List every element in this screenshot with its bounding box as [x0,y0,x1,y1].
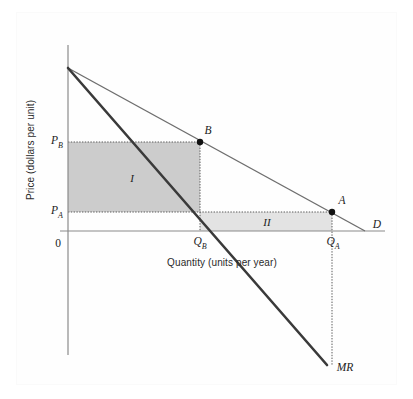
price-tick-pa: PA [51,204,63,219]
quantity-tick-qa: QA [326,235,339,250]
region-two-label: II [263,216,270,228]
x-axis-title: Quantity (units per year) [167,257,277,268]
y-axis-title: Price (dollars per unit) [25,100,36,200]
demand-curve-label: D [373,218,381,230]
quantity-tick-qa-sub: A [335,242,340,251]
quantity-tick-qb-sub: B [202,242,207,251]
price-tick-pb-sub: B [58,141,63,150]
price-tick-pb-text: P [51,134,58,146]
quantity-tick-qb: QB [193,235,206,250]
origin-label: 0 [55,237,61,249]
price-tick-pb: PB [51,134,63,149]
price-tick-pa-text: P [51,204,58,216]
point-a-label: A [338,194,345,206]
point-b-label: B [204,124,211,136]
chart-canvas [0,0,413,399]
marginal-revenue-curve-label: MR [337,361,354,373]
figure-root: Price (dollars per unit) Quantity (units… [0,0,413,399]
point-a-marker [329,209,335,215]
point-b-marker [197,139,203,145]
region-one-label: I [130,172,134,184]
price-tick-pa-sub: A [58,211,63,220]
